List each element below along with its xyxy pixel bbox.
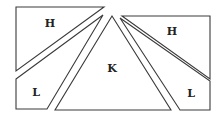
label-right-top: H bbox=[167, 25, 177, 38]
label-right-bottom: L bbox=[187, 87, 195, 100]
label-left-top: H bbox=[45, 17, 55, 30]
label-center: K bbox=[107, 62, 117, 75]
dissection-diagram: H L K H L bbox=[0, 0, 216, 120]
label-left-bottom: L bbox=[32, 86, 40, 99]
